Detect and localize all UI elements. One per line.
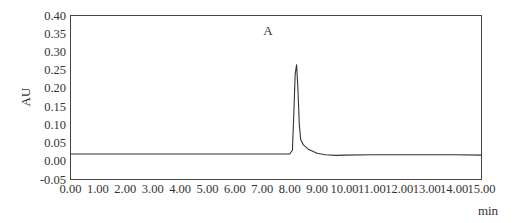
y-tick-label: 0.40	[44, 9, 66, 23]
x-axis-ticks: 0.001.002.003.004.005.006.007.008.009.00…	[60, 182, 496, 196]
x-tick-label: 11.00	[358, 182, 386, 196]
chromatogram-trace	[71, 65, 482, 156]
y-tick-label: 0.20	[44, 81, 66, 95]
x-tick-label: 2.00	[114, 182, 136, 196]
y-tick-label: 0.25	[44, 63, 66, 77]
x-tick-label: 3.00	[142, 182, 164, 196]
y-tick-label: 0.15	[44, 100, 66, 114]
x-tick-label: 15.00	[467, 182, 495, 196]
chromatogram-chart: 0.400.350.300.250.200.150.100.050.00-0.0…	[0, 0, 521, 223]
y-axis-title: AU	[18, 87, 33, 106]
x-tick-label: 9.00	[306, 182, 328, 196]
y-tick-label: 0.30	[44, 45, 66, 59]
x-tick-label: 6.00	[224, 182, 246, 196]
y-tick-label: 0.10	[44, 118, 66, 132]
x-tick-label: 10.00	[330, 182, 358, 196]
peak-annotation: A	[263, 23, 273, 38]
x-tick-label: 14.00	[440, 182, 468, 196]
x-tick-label: 8.00	[279, 182, 301, 196]
x-tick-label: 1.00	[87, 182, 109, 196]
x-tick-label: 7.00	[251, 182, 273, 196]
y-tick-label: 0.05	[44, 136, 66, 150]
x-tick-label: 0.00	[60, 182, 82, 196]
y-tick-label: 0.00	[44, 154, 66, 168]
x-tick-label: 4.00	[169, 182, 191, 196]
x-tick-label: 13.00	[413, 182, 441, 196]
x-axis-title: min	[478, 203, 499, 218]
x-tick-label: 12.00	[385, 182, 413, 196]
y-tick-label: 0.35	[44, 27, 66, 41]
x-tick-label: 5.00	[197, 182, 219, 196]
y-axis-ticks: 0.400.350.300.250.200.150.100.050.00-0.0…	[40, 9, 66, 187]
